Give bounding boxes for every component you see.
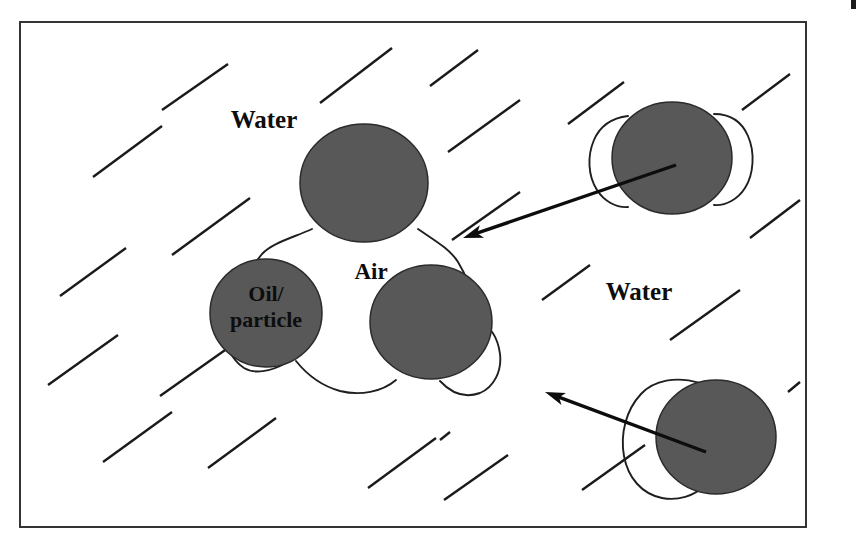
free-particle-top-right xyxy=(612,102,732,214)
cluster-particle-top xyxy=(300,124,428,242)
scan-artifact-mark xyxy=(851,0,856,9)
cluster-particle-right xyxy=(370,265,492,379)
label-oil-particle-line2: particle xyxy=(230,307,302,332)
label-oil-particle-line1: Oil/ xyxy=(248,281,284,306)
label-air: Air xyxy=(354,259,387,284)
label-water-top-left: Water xyxy=(231,106,298,133)
free-particle-bottom-right xyxy=(656,380,776,494)
figure-root: Water Water Air Oil/ particle xyxy=(0,0,861,543)
flotation-diagram: Water Water Air Oil/ particle xyxy=(0,0,861,543)
label-water-right: Water xyxy=(606,278,673,305)
